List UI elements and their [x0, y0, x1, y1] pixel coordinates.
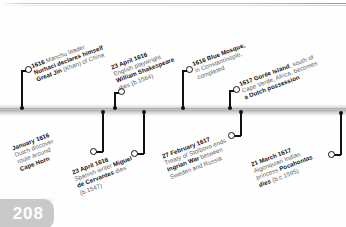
connector-hook-goree-island	[229, 90, 234, 92]
event-caption-blue-mosque: 1616 Blue Mosque, in Constantinople, com…	[191, 41, 251, 81]
connector-stem-pocahontas-dies	[340, 113, 342, 155]
page-top-rule-secondary	[0, 5, 346, 6]
event-caption-cervantes-dies: 23 April 1616 Spanish writer Miguel de C…	[71, 148, 138, 196]
connector-hook-shakespeare-dies	[114, 92, 119, 94]
event-caption-cape-horn: January 1616 Dutch discover route around…	[11, 131, 59, 172]
event-ring-cervantes-dies	[131, 150, 138, 157]
connector-hook-cervantes-dies	[137, 153, 144, 155]
event-caption-treaty-stolbovo: 27 February 1617 Treaty of Stolbovo ends…	[161, 130, 232, 180]
timeline-axis-bar	[0, 104, 346, 116]
event-caption-manchu-nurhaci: 1616 Manchu leader Nurhaci declares hims…	[30, 37, 106, 83]
page-number-label: 208	[13, 204, 44, 224]
event-ring-goree-island	[233, 86, 240, 93]
event-caption-pocahontas-dies: 21 March 1617 Algonquian Indian princess…	[250, 140, 316, 188]
page-number-chip: 208	[0, 199, 54, 227]
connector-hook-blue-mosque	[182, 70, 187, 72]
connector-hook-cape-horn	[96, 151, 103, 153]
event-ring-cape-horn	[90, 148, 97, 155]
connector-stem-blue-mosque	[182, 70, 184, 108]
timeline-page: 1616 Manchu leader Nurhaci declares hims…	[0, 0, 346, 227]
event-ring-blue-mosque	[186, 66, 193, 73]
connector-hook-pocahontas-dies	[334, 154, 341, 156]
connector-stem-cape-horn	[102, 112, 104, 152]
connector-hook-treaty-stolbovo	[234, 135, 241, 137]
connector-stem-cervantes-dies	[143, 112, 145, 154]
event-ring-pocahontas-dies	[328, 151, 335, 158]
page-top-rule	[0, 3, 346, 4]
event-caption-shakespeare-dies: 23 April 1616 English playwright William…	[110, 42, 178, 90]
connector-stem-shakespeare-dies	[114, 92, 116, 108]
connector-stem-goree-island	[229, 90, 231, 108]
connector-stem-treaty-stolbovo	[240, 112, 242, 136]
connector-hook-manchu-nurhaci	[21, 70, 26, 72]
connector-stem-manchu-nurhaci	[21, 70, 23, 108]
event-ring-treaty-stolbovo	[228, 132, 235, 139]
